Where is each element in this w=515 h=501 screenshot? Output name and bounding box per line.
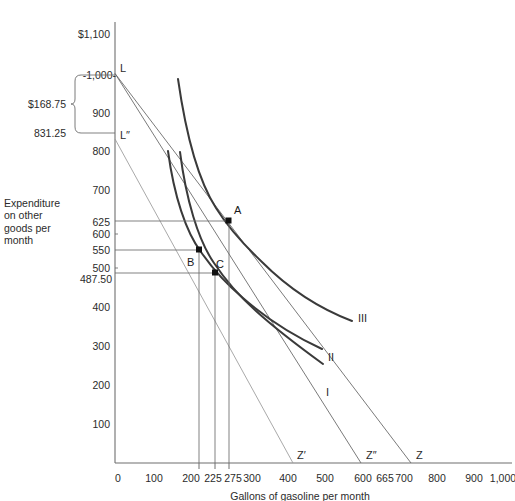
x-tick-500: 500	[316, 472, 334, 484]
indifference-label-i: I	[326, 386, 329, 398]
y-tick-100: 100	[92, 418, 110, 430]
budget-line-L-to-Z	[115, 74, 411, 464]
bracket-lower-label: 831.25	[34, 127, 66, 139]
indifference-curve-iii	[178, 79, 352, 321]
y-tick-1100: $1,100	[78, 28, 110, 40]
x-tick-1000: 1,000	[490, 472, 515, 484]
y-tick-487-50: 487.50	[80, 273, 112, 285]
x-axis-title: Gallons of gasoline per month	[230, 490, 370, 501]
x-tick-275: 275	[224, 472, 242, 484]
x-tick-665: 665	[376, 472, 394, 484]
point-label-c: C	[216, 258, 224, 270]
x-axis-tickmarks	[199, 463, 229, 469]
y-tick-800: 800	[92, 145, 110, 157]
y-axis-title-line-1: Expenditure	[4, 197, 84, 209]
budget-lines-group	[115, 74, 411, 464]
guide-lines-group	[115, 221, 229, 463]
indifference-curve-i	[180, 152, 323, 364]
point-marker-c	[212, 270, 218, 276]
x-tick-800: 800	[428, 472, 446, 484]
bracket-amount-label: $168.75	[28, 98, 66, 110]
y-axis-title: Expenditure on other goods per month	[4, 197, 84, 247]
x-tick-200: 200	[182, 472, 200, 484]
point-marker-b	[196, 247, 202, 253]
budget-line-L-to-Zdd	[115, 74, 361, 464]
axis-endpoint-label-Zdd: Z″	[366, 449, 377, 461]
axis-endpoint-label-Zd: Z′	[297, 449, 306, 461]
indifference-label-iii: III	[358, 312, 367, 324]
x-tick-100: 100	[145, 472, 163, 484]
y-tick-200: 200	[92, 379, 110, 391]
budget-line-Ldd-to-Zd	[115, 139, 293, 463]
budget-line-labels: L L″ Z′ Z″ Z	[120, 62, 423, 461]
y-tick-400: 400	[92, 301, 110, 313]
x-tick-700: 700	[395, 472, 413, 484]
axes-group	[115, 22, 512, 463]
x-tick-400: 400	[279, 472, 297, 484]
indifference-label-ii: II	[328, 351, 334, 363]
y-tick-700: 700	[92, 184, 110, 196]
x-tick-225: 225	[204, 472, 222, 484]
y-axis-title-line-3: goods per	[4, 222, 84, 234]
y-axis-title-line-2: on other	[4, 209, 84, 221]
y-tick-900: 900	[92, 107, 110, 119]
x-tick-0: 0	[115, 472, 121, 484]
indifference-curves-group	[168, 79, 352, 364]
budget-label-Ldd: L″	[120, 129, 130, 141]
budget-label-L: L	[120, 62, 126, 74]
point-label-a: A	[234, 204, 242, 216]
chart-canvas: Expenditure on other goods per month $1,…	[0, 0, 515, 501]
y-tick-300: 300	[92, 340, 110, 352]
y-tick-625: 625	[92, 216, 110, 228]
x-tick-900: 900	[465, 472, 483, 484]
brace-path	[71, 75, 81, 133]
y-tick-600: 600	[92, 228, 110, 240]
x-tick-300: 300	[243, 472, 261, 484]
y-axis-title-line-4: month	[4, 234, 84, 246]
y-tick-550: 550	[92, 244, 110, 256]
indifference-curve-diagram: $1,100 -1,000- 900 800 700 625 600 550 5…	[0, 0, 515, 501]
point-marker-a	[226, 218, 232, 224]
point-label-b: B	[187, 256, 194, 268]
indifference-curve-labels: III II I	[326, 312, 367, 398]
x-tick-600: 600	[354, 472, 372, 484]
x-tick-labels: 0 100 200 225 275 300 400 500 600 665 70…	[115, 472, 515, 484]
axis-endpoint-label-Z: Z	[416, 449, 423, 461]
